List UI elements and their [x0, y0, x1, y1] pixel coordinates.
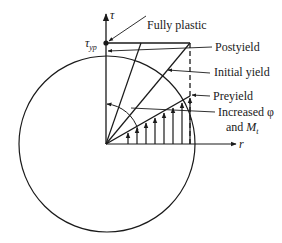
- initial-yield-label: Initial yield: [214, 66, 270, 78]
- fully-plastic-label: Fully plastic: [147, 19, 207, 31]
- postyield-leader: [108, 47, 212, 51]
- stress-arrows: [128, 98, 190, 144]
- yield-stress-label: τyp: [85, 37, 97, 52]
- preyield-leader: [192, 95, 210, 96]
- yield-point-dot: [103, 40, 108, 45]
- increased-mt-label: and Mt: [226, 121, 259, 136]
- postyield-label: Postyield: [215, 41, 260, 53]
- r-axis-label: r: [239, 138, 244, 150]
- tau-axis-label: τ: [110, 9, 114, 21]
- initial-yield-line: [106, 43, 190, 144]
- preyield-line: [106, 96, 190, 144]
- preyield-label: Preyield: [213, 90, 253, 102]
- initial-yield-leader: [168, 70, 210, 73]
- increased-phi-label: Increased φ: [218, 106, 274, 118]
- fully-plastic-leader: [109, 16, 146, 41]
